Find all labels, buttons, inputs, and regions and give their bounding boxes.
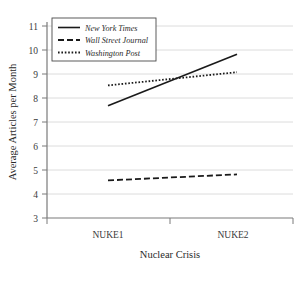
series-wall-street-journal	[108, 174, 237, 180]
y-tick-label: 6	[33, 142, 38, 152]
legend-label-new-york-times: New York Times	[84, 24, 137, 33]
legend-label-wall-street-journal: Wall Street Journal	[85, 36, 149, 45]
line-chart: 11 10 9 8 7 6 5 4 3 NUKE1 NUKE2 Nuclear …	[0, 0, 304, 281]
x-tick-label-nuke2: NUKE2	[217, 230, 248, 240]
y-tick-label: 4	[33, 190, 38, 200]
x-tick-label-nuke1: NUKE1	[92, 230, 123, 240]
x-axis-title: Nuclear Crisis	[140, 249, 200, 260]
y-axis-ticks	[42, 26, 47, 218]
y-tick-label: 10	[29, 46, 39, 56]
y-tick-label: 5	[33, 166, 38, 176]
chart-legend: New York Times Wall Street Journal Washi…	[52, 18, 156, 61]
series-line-wall-street-journal	[108, 174, 237, 180]
y-tick-label: 9	[33, 70, 38, 80]
y-tick-label: 8	[33, 94, 38, 104]
x-axis-ticks	[47, 218, 293, 224]
chart-figure: 11 10 9 8 7 6 5 4 3 NUKE1 NUKE2 Nuclear …	[0, 0, 304, 281]
y-tick-label: 11	[29, 22, 38, 32]
x-axis-tick-labels: NUKE1 NUKE2	[92, 230, 248, 240]
y-axis-tick-labels: 11 10 9 8 7 6 5 4 3	[29, 22, 39, 224]
legend-label-washington-post: Washington Post	[85, 49, 141, 58]
y-axis-title: Average Articles per Month	[7, 63, 18, 180]
y-tick-label: 3	[33, 214, 38, 224]
y-tick-label: 7	[33, 118, 38, 128]
